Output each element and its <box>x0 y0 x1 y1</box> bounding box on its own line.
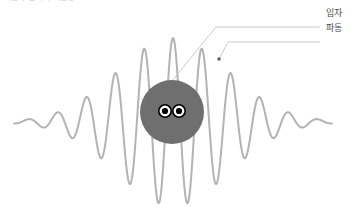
callout-label-wave: 파동 <box>326 23 342 33</box>
callout-label-particle: 입자 <box>326 8 342 18</box>
callout-line-wave <box>219 42 320 59</box>
particle-circle <box>140 80 204 144</box>
wave-marker-dot <box>218 58 221 61</box>
wave-particle-figure <box>0 0 356 212</box>
eye-pupil-1 <box>162 108 168 114</box>
callout-line-particle <box>172 27 320 81</box>
eye-pupil-2 <box>176 108 182 114</box>
diagram-canvas: 파동과 입자의 이중성 입자 파동 <box>0 0 356 212</box>
